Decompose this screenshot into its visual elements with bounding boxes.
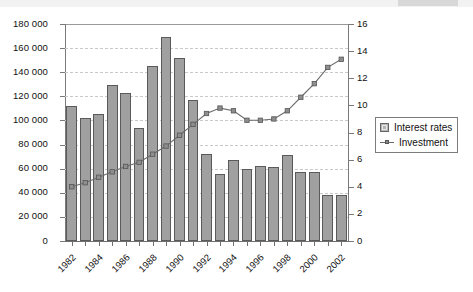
- y2-tick-label: 6: [357, 153, 362, 164]
- y-tick-mark: [60, 72, 65, 73]
- x-tick-mark: [220, 242, 221, 246]
- x-tick-mark: [233, 242, 234, 246]
- y2-tick-mark: [349, 214, 354, 215]
- y-tick-label: 100 000: [0, 114, 48, 125]
- chart-legend: Interest rates Investment: [375, 117, 458, 153]
- x-tick-mark: [166, 242, 167, 246]
- line-marker: [83, 180, 87, 184]
- y-tick-mark: [60, 24, 65, 25]
- x-tick-mark: [112, 242, 113, 246]
- y-tick-label: 0: [0, 235, 48, 246]
- x-tick-mark: [85, 242, 86, 246]
- x-tick-mark: [247, 242, 248, 246]
- x-tick-mark: [72, 242, 73, 246]
- x-tick-mark: [139, 242, 140, 246]
- y2-tick-mark: [349, 51, 354, 52]
- line-marker: [285, 109, 289, 113]
- plot-area: [65, 24, 348, 241]
- y-tick-mark: [60, 48, 65, 49]
- line-marker: [339, 57, 343, 61]
- y2-tick-label: 16: [357, 18, 368, 29]
- x-tick-mark: [341, 242, 342, 246]
- legend-label-interest-rates: Interest rates: [394, 122, 452, 133]
- line-marker: [177, 133, 181, 137]
- y2-tick-label: 14: [357, 45, 368, 56]
- y-tick-label: 40 000: [0, 186, 48, 197]
- x-tick-mark: [99, 242, 100, 246]
- y-tick-label: 140 000: [0, 66, 48, 77]
- y2-tick-label: 12: [357, 72, 368, 83]
- y2-tick-label: 0: [357, 235, 362, 246]
- y2-tick-mark: [349, 105, 354, 106]
- line-marker: [272, 117, 276, 121]
- investment-line-svg: [65, 24, 348, 241]
- x-tick-mark: [287, 242, 288, 246]
- line-marker: [312, 81, 316, 85]
- y-tick-label: 160 000: [0, 42, 48, 53]
- line-marker: [231, 109, 235, 113]
- line-marker: [326, 65, 330, 69]
- y2-tick-label: 4: [357, 180, 362, 191]
- y-tick-label: 120 000: [0, 90, 48, 101]
- line-marker: [96, 175, 100, 179]
- y2-tick-label: 2: [357, 207, 362, 218]
- line-marker: [70, 185, 74, 189]
- y-tick-label: 60 000: [0, 162, 48, 173]
- line-marker: [218, 106, 222, 110]
- line-marker: [164, 144, 168, 148]
- top-scan-band-right: [398, 0, 458, 6]
- legend-item-investment: Investment: [380, 136, 452, 149]
- line-marker: [191, 122, 195, 126]
- legend-item-interest-rates: Interest rates: [380, 121, 452, 134]
- y-tick-label: 80 000: [0, 138, 48, 149]
- x-tick-mark: [274, 242, 275, 246]
- y2-tick-mark: [349, 78, 354, 79]
- line-marker: [150, 152, 154, 156]
- line-series-investment: [65, 24, 348, 241]
- line-marker: [123, 164, 127, 168]
- y2-tick-mark: [349, 133, 354, 134]
- x-tick-mark: [314, 242, 315, 246]
- x-tick-mark: [260, 242, 261, 246]
- y2-tick-mark: [349, 160, 354, 161]
- y-tick-mark: [60, 96, 65, 97]
- y-tick-mark: [60, 193, 65, 194]
- line-marker: [245, 118, 249, 122]
- y-tick-mark: [60, 217, 65, 218]
- line-marker: [110, 170, 114, 174]
- y2-tick-label: 8: [357, 126, 362, 137]
- x-tick-mark: [126, 242, 127, 246]
- y2-tick-mark: [349, 241, 354, 242]
- line-marker-swatch-icon: [380, 138, 394, 147]
- legend-label-investment: Investment: [399, 137, 448, 148]
- x-tick-mark: [193, 242, 194, 246]
- bar-swatch-icon: [380, 123, 389, 132]
- y-tick-mark: [60, 169, 65, 170]
- chart-page: 020 00040 00060 00080 000100 000120 0001…: [0, 0, 473, 292]
- investment-line-path: [72, 59, 342, 186]
- y-tick-label: 20 000: [0, 210, 48, 221]
- y2-tick-label: 10: [357, 99, 368, 110]
- y-tick-label: 180 000: [0, 18, 48, 29]
- x-tick-mark: [153, 242, 154, 246]
- x-tick-mark: [180, 242, 181, 246]
- line-marker: [258, 118, 262, 122]
- y2-tick-mark: [349, 24, 354, 25]
- line-marker: [204, 111, 208, 115]
- x-tick-mark: [301, 242, 302, 246]
- x-tick-mark: [207, 242, 208, 246]
- x-tick-mark: [328, 242, 329, 246]
- y-tick-mark: [60, 120, 65, 121]
- y2-tick-mark: [349, 187, 354, 188]
- y-tick-mark: [60, 241, 65, 242]
- line-marker: [299, 95, 303, 99]
- y-tick-mark: [60, 145, 65, 146]
- line-marker: [137, 160, 141, 164]
